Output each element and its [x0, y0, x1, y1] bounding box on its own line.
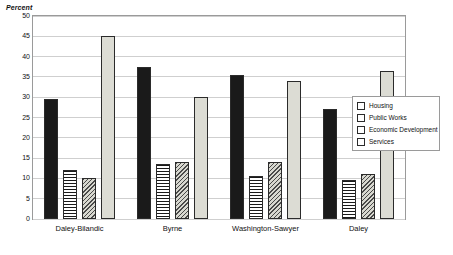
y-tick-label: 15 [4, 154, 30, 161]
bar [63, 170, 77, 219]
bar [249, 176, 263, 219]
gridline [33, 97, 405, 98]
bar [194, 97, 208, 219]
bar [101, 36, 115, 219]
x-tick-label: Byrne [126, 224, 219, 233]
x-tick-label: Daley-Bilandic [33, 224, 126, 233]
bar-chart: Percent 05101520253035404550 HousingPubl… [0, 0, 453, 255]
bar [137, 67, 151, 219]
bar [342, 180, 356, 219]
bar [230, 75, 244, 219]
legend-swatch-icon [357, 114, 365, 122]
gridline [33, 36, 405, 37]
plot-area [33, 16, 405, 219]
gridline [33, 76, 405, 77]
legend-swatch-icon [357, 102, 365, 110]
chart-legend: HousingPublic WorksEconomic DevelopmentS… [352, 96, 440, 151]
legend-item[interactable]: Economic Development [357, 125, 435, 134]
y-tick-label: 35 [4, 73, 30, 80]
legend-label: Public Works [369, 113, 407, 122]
legend-item[interactable]: Housing [357, 101, 435, 110]
bar [323, 109, 337, 219]
gridline [33, 16, 405, 17]
bar [268, 162, 282, 219]
legend-item[interactable]: Services [357, 137, 435, 146]
bar [175, 162, 189, 219]
y-tick-label: 50 [4, 12, 30, 19]
bar [361, 174, 375, 219]
bar [156, 164, 170, 219]
legend-swatch-icon [357, 126, 365, 134]
y-tick-label: 0 [4, 215, 30, 222]
legend-label: Services [369, 137, 394, 146]
legend-label: Economic Development [369, 125, 438, 134]
gridline [33, 158, 405, 159]
y-tick-label: 10 [4, 174, 30, 181]
gridline [33, 137, 405, 138]
y-axis-title: Percent [6, 4, 32, 11]
y-tick-label: 25 [4, 114, 30, 121]
gridline [33, 56, 405, 57]
bar [82, 178, 96, 219]
gridline [33, 117, 405, 118]
legend-swatch-icon [357, 138, 365, 146]
legend-item[interactable]: Public Works [357, 113, 435, 122]
x-tick-label: Daley [312, 224, 405, 233]
bar [44, 99, 58, 219]
bar [287, 81, 301, 219]
y-tick-label: 45 [4, 32, 30, 39]
y-tick-label: 30 [4, 93, 30, 100]
x-tick-label: Washington-Sawyer [219, 224, 312, 233]
y-tick-label: 5 [4, 195, 30, 202]
y-tick-label: 40 [4, 53, 30, 60]
y-axis-tick-labels: 05101520253035404550 [0, 16, 30, 219]
legend-label: Housing [369, 101, 393, 110]
y-tick-label: 20 [4, 134, 30, 141]
